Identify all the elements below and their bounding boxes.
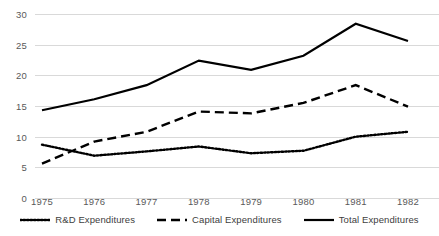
- legend-item[interactable]: R&D Expenditures: [20, 214, 135, 225]
- legend-item-label: Total Expenditures: [339, 214, 419, 225]
- legend-item-label: Capital Expenditures: [192, 214, 282, 225]
- series-line-total-expenditures: [42, 24, 408, 110]
- x-axis-tick-label: 1982: [397, 196, 419, 207]
- chart-legend: R&D ExpendituresCapital ExpendituresTota…: [0, 214, 439, 225]
- x-axis-tick-label: 1978: [188, 196, 210, 207]
- x-axis-tick-label: 1975: [31, 196, 53, 207]
- x-axis-tick-label: 1976: [83, 196, 105, 207]
- x-axis-tick-label: 1980: [292, 196, 314, 207]
- line-chart: 302520151050 197519761977197819791980198…: [0, 0, 439, 236]
- series-line-capital-expenditures: [42, 85, 408, 163]
- dashed-line-key: [157, 215, 187, 225]
- legend-item[interactable]: Total Expenditures: [304, 214, 419, 225]
- x-axis-tick-label: 1977: [136, 196, 158, 207]
- x-axis-tick-label: 1979: [240, 196, 262, 207]
- x-axis-tick-labels: 19751976197719781979198019811982: [0, 192, 439, 210]
- series-line-r-d-expenditures: [42, 132, 408, 156]
- legend-item-label: R&D Expenditures: [55, 214, 135, 225]
- solid-line-key: [304, 215, 334, 225]
- x-axis-tick-label: 1981: [345, 196, 367, 207]
- legend-item[interactable]: Capital Expenditures: [157, 214, 282, 225]
- dotted-line-key: [20, 215, 50, 225]
